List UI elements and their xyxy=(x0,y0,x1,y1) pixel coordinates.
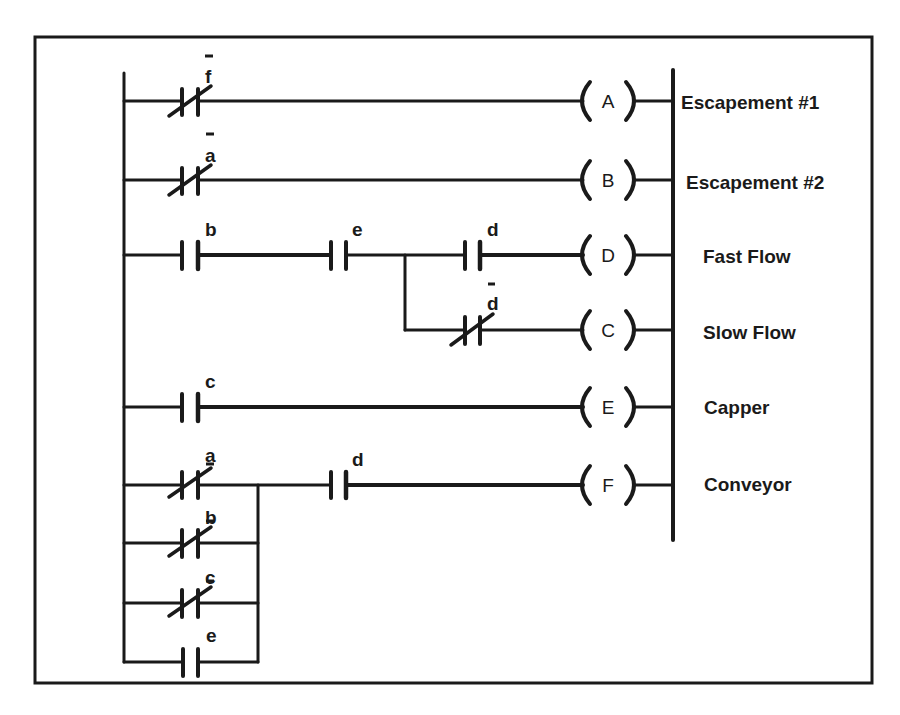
rung-d xyxy=(124,236,673,274)
ladder-diagram: f a b e d d c a d b c e A B D C E F Esca… xyxy=(0,0,900,715)
contact-label-c-negated: c xyxy=(205,567,216,588)
contact-label-c: c xyxy=(205,371,216,392)
contact-label-d: d xyxy=(487,219,499,240)
output-label-escapement-1: Escapement #1 xyxy=(681,92,820,113)
contact-label-a-negated: a xyxy=(205,445,216,466)
rung-b xyxy=(124,161,673,199)
output-label-capper: Capper xyxy=(704,397,770,418)
coil-d: D xyxy=(601,245,615,266)
contact-label-b-negated: b xyxy=(205,507,217,528)
diagram-frame xyxy=(35,37,872,683)
rung-a xyxy=(124,82,673,120)
coil-a-left xyxy=(582,82,590,120)
coil-e: E xyxy=(602,397,615,418)
contact-label-a: a xyxy=(205,145,216,166)
output-label-fast-flow: Fast Flow xyxy=(703,246,791,267)
output-label-escapement-2: Escapement #2 xyxy=(686,172,824,193)
rung-c xyxy=(405,255,673,349)
output-label-conveyor: Conveyor xyxy=(704,474,792,495)
output-label-slow-flow: Slow Flow xyxy=(703,322,796,343)
contact-label-e: e xyxy=(352,219,363,240)
contact-label-d-negated: d xyxy=(487,293,499,314)
coil-f: F xyxy=(602,475,614,496)
contact-label-d-series: d xyxy=(352,449,364,470)
contact-label-b: b xyxy=(205,219,217,240)
coil-a: A xyxy=(602,91,615,112)
contact-label-f: f xyxy=(205,66,212,87)
contact-label-e-parallel: e xyxy=(206,625,217,646)
rung-e xyxy=(124,388,673,426)
coil-c: C xyxy=(601,320,615,341)
coil-b: B xyxy=(602,170,615,191)
